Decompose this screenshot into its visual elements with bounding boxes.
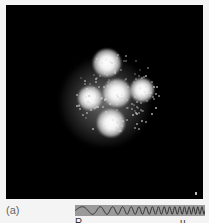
noise-speck [139, 87, 141, 89]
noise-speck [134, 73, 136, 75]
noise-speck [116, 94, 118, 96]
noise-speck [109, 103, 111, 105]
noise-speck [93, 74, 95, 76]
noise-speck [131, 108, 133, 110]
noise-speck [147, 67, 149, 69]
noise-speck [121, 125, 123, 127]
noise-speck [111, 130, 113, 132]
noise-speck [155, 93, 157, 95]
noise-speck [134, 96, 136, 98]
noise-speck [111, 62, 113, 64]
noise-speck [84, 83, 86, 85]
noise-speck [151, 81, 153, 83]
noise-speck [105, 98, 107, 100]
noise-speck [96, 95, 98, 97]
noise-speck [116, 57, 118, 59]
noise-speck [105, 59, 107, 61]
noise-speck [150, 92, 152, 94]
scale-mark [195, 192, 197, 195]
noise-speck [100, 69, 102, 71]
noise-speck [138, 112, 140, 114]
chirp-wave-icon [75, 205, 205, 216]
noise-speck [145, 94, 147, 96]
noise-speck [104, 72, 106, 74]
noise-speck [135, 78, 137, 80]
noise-speck [145, 75, 147, 77]
noise-speck [85, 117, 87, 119]
noise-speck [93, 87, 95, 89]
noise-speck [93, 90, 95, 92]
noise-speck [88, 95, 90, 97]
noise-speck [102, 106, 104, 108]
noise-speck [96, 77, 98, 79]
cropped-caption-text: R . . u . . u . . . X . . . Q [75, 218, 205, 223]
noise-speck [90, 109, 92, 111]
noise-speck [86, 112, 88, 114]
noise-speck [116, 109, 118, 111]
noise-speck [82, 114, 84, 116]
noise-speck [115, 127, 117, 129]
noise-speck [107, 81, 109, 83]
noise-speck [151, 113, 153, 115]
noise-speck [126, 119, 128, 121]
noise-speck [117, 54, 119, 56]
noise-speck [148, 86, 150, 88]
noise-speck [126, 107, 128, 109]
noise-speck [134, 127, 136, 129]
noise-speck [147, 84, 149, 86]
noise-speck [156, 86, 158, 88]
noise-speck [118, 130, 120, 132]
noise-speck [121, 94, 123, 96]
noise-speck [141, 120, 143, 122]
noise-speck [133, 81, 135, 83]
noise-speck [104, 125, 106, 127]
noise-speck [153, 98, 155, 100]
chirp-waveform-strip [75, 205, 205, 216]
noise-speck [138, 75, 140, 77]
noise-speck [133, 104, 135, 106]
noise-speck [120, 120, 122, 122]
noise-speck [108, 79, 110, 81]
noise-speck [139, 69, 141, 71]
noise-speck [141, 110, 143, 112]
noise-speck [121, 97, 123, 99]
noise-speck [141, 95, 143, 97]
noise-speck [145, 121, 147, 123]
noise-speck [138, 128, 140, 130]
noise-speck [123, 60, 125, 62]
noise-speck [98, 86, 100, 88]
noise-speck [95, 81, 97, 83]
noise-speck [114, 66, 116, 68]
noise-speck [80, 77, 82, 79]
noise-speck [125, 60, 127, 62]
noise-speck [135, 60, 137, 62]
noise-speck [105, 111, 107, 113]
noise-speck [136, 101, 138, 103]
noise-speck [89, 83, 91, 85]
noise-speck [140, 102, 142, 104]
noise-speck [135, 112, 137, 114]
noise-speck [85, 96, 87, 98]
noise-speck [79, 108, 81, 110]
noise-speck [132, 114, 134, 116]
noise-speck [125, 55, 127, 57]
noise-speck [101, 62, 103, 64]
noise-speck [110, 84, 112, 86]
panel-label: (a) [6, 204, 19, 216]
noise-speck [92, 104, 94, 106]
noise-speck [92, 128, 94, 130]
spot-bottom [97, 109, 125, 137]
image-panel [6, 5, 203, 199]
noise-speck [95, 61, 97, 63]
noise-speck [76, 94, 78, 96]
noise-speck [87, 101, 89, 103]
noise-speck [115, 64, 117, 66]
noise-speck [134, 110, 136, 112]
noise-speck [112, 119, 114, 121]
noise-speck [155, 107, 157, 109]
noise-speck [114, 72, 116, 74]
noise-speck [145, 86, 147, 88]
noise-speck [153, 86, 155, 88]
noise-speck [125, 78, 127, 80]
noise-speck [86, 88, 88, 90]
